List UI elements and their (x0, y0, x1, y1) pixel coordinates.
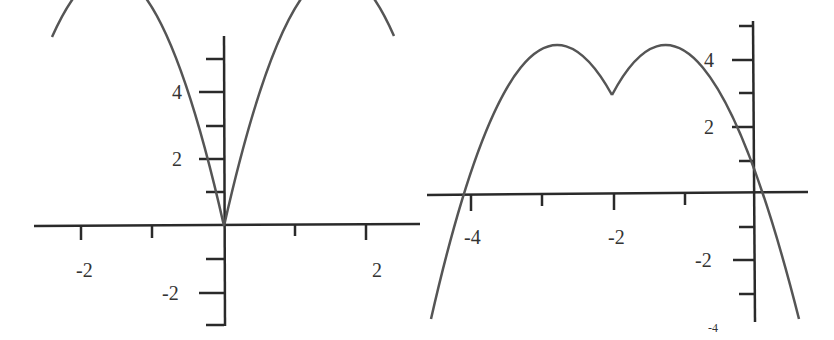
left-x-label-neg2: -2 (76, 259, 93, 281)
left-y-label-neg2: -2 (162, 282, 179, 304)
right-y-label-2: 2 (704, 116, 714, 138)
right-y-label-neg2: -2 (695, 249, 712, 271)
right-y-label-neg4: -4 (708, 321, 718, 335)
left-chart: 4 2 -2 -2 2 (34, 0, 420, 326)
charts-canvas: 4 2 -2 -2 2 4 2 -2 -4 -4 -2 (0, 0, 834, 340)
left-y-label-2: 2 (172, 148, 182, 170)
right-x-axis (427, 192, 808, 195)
right-chart: 4 2 -2 -4 -4 -2 (427, 21, 808, 335)
right-parabola (431, 45, 799, 319)
right-x-label-neg4: -4 (464, 226, 481, 248)
left-y-axis (224, 36, 225, 326)
left-x-label-2: 2 (372, 259, 382, 281)
left-y-label-4: 4 (172, 81, 182, 103)
right-x-label-neg2: -2 (608, 226, 625, 248)
left-x-axis (34, 224, 420, 226)
right-y-label-4: 4 (704, 49, 714, 71)
